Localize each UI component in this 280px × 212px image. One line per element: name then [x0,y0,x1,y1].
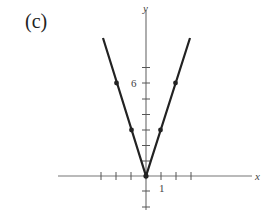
point-2-6 [173,81,178,86]
y-axis-label: y [142,2,148,14]
y-tick-label-6: 6 [131,77,137,89]
x-axis-label: x [254,170,260,182]
point-origin [143,173,148,178]
point-1-3 [158,128,163,133]
point-neg1-3 [129,128,134,133]
point-neg2-6 [114,81,119,86]
graph: x y 1 6 [0,0,280,212]
x-tick-label-1: 1 [159,182,165,194]
